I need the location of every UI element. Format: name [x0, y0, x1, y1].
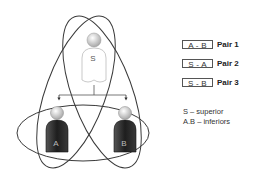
pair3-box: S - B [182, 78, 213, 87]
pair1-box: A - B [182, 40, 213, 49]
legend-pair3: S - B Pair 3 [182, 77, 239, 87]
inferior-b-letter: B [121, 139, 126, 148]
pair-relationship-diagram: S A B [0, 0, 255, 179]
note-inferiors: A.B – inferiors [183, 117, 230, 126]
inferior-a-person-icon: A [46, 107, 68, 153]
legend-pair2: S - A Pair 2 [182, 58, 239, 68]
legend-pair1: A - B Pair 1 [182, 39, 239, 49]
inferior-b-person-icon: B [114, 107, 136, 153]
note-superior: S – superior [183, 107, 223, 116]
pair2-box: S - A [182, 59, 213, 68]
superior-person-icon: S [82, 33, 106, 82]
pair3-label: Pair 3 [217, 78, 239, 87]
pair1-label: Pair 1 [217, 40, 239, 49]
inferior-a-letter: A [53, 139, 59, 148]
superior-letter: S [90, 54, 95, 63]
pair2-label: Pair 2 [217, 59, 239, 68]
